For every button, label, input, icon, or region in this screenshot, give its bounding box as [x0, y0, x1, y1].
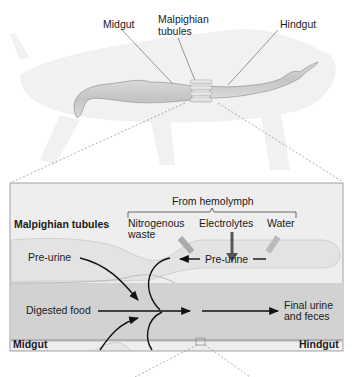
label-malpighian-top-2: tubules [158, 26, 192, 37]
label-malpighian-tubules: Malpighian tubules [14, 219, 109, 230]
label-final-urine-2: and feces [284, 311, 330, 322]
label-malpighian-top-1: Malpighian [158, 14, 209, 25]
label-pre-urine-right: Pre-urine [205, 254, 248, 265]
label-water: Water [267, 218, 295, 229]
label-pre-urine-left: Pre-urine [28, 252, 71, 263]
label-midgut-panel: Midgut [13, 339, 47, 350]
label-electrolytes: Electrolytes [199, 218, 253, 229]
label-nitrogenous-2: waste [128, 229, 155, 240]
label-from-hemolymph: From hemolymph [172, 196, 254, 207]
label-hindgut-top: Hindgut [280, 19, 316, 30]
label-hindgut-panel: Hindgut [299, 339, 339, 350]
label-midgut-top: Midgut [103, 19, 135, 30]
label-digested-food: Digested food [26, 305, 91, 316]
